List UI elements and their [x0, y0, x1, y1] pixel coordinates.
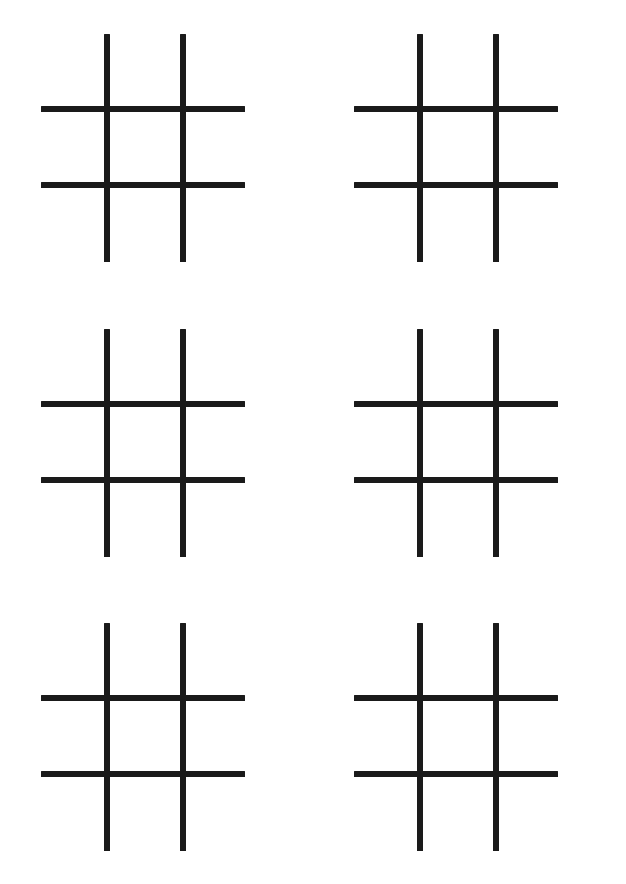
- grid-horizontal-line-top: [354, 106, 558, 112]
- tic-tac-toe-sheet: [0, 0, 626, 884]
- grid-vertical-line-right: [180, 623, 186, 851]
- grid-horizontal-line-bottom: [354, 477, 558, 483]
- grid-vertical-line-right: [493, 34, 499, 262]
- grid-horizontal-line-top: [41, 695, 245, 701]
- grid-vertical-line-left: [104, 34, 110, 262]
- grid-vertical-line-right: [180, 329, 186, 557]
- board-slot-middle-right: [313, 295, 626, 590]
- grid-vertical-line-left: [417, 329, 423, 557]
- tic-tac-toe-grid-6[interactable]: [354, 623, 558, 851]
- tic-tac-toe-grid-4[interactable]: [354, 329, 558, 557]
- grid-vertical-line-left: [417, 623, 423, 851]
- grid-horizontal-line-top: [41, 106, 245, 112]
- grid-horizontal-line-bottom: [41, 182, 245, 188]
- board-slot-top-left: [0, 0, 313, 295]
- page-canvas: [0, 0, 626, 884]
- tic-tac-toe-grid-5[interactable]: [41, 623, 245, 851]
- grid-vertical-line-left: [417, 34, 423, 262]
- board-slot-bottom-left: [0, 590, 313, 884]
- grid-vertical-line-right: [493, 623, 499, 851]
- grid-horizontal-line-bottom: [354, 771, 558, 777]
- grid-vertical-line-right: [493, 329, 499, 557]
- board-slot-middle-left: [0, 295, 313, 590]
- grid-horizontal-line-bottom: [354, 182, 558, 188]
- grid-vertical-line-left: [104, 623, 110, 851]
- grid-horizontal-line-bottom: [41, 477, 245, 483]
- tic-tac-toe-grid-2[interactable]: [354, 34, 558, 262]
- board-slot-bottom-right: [313, 590, 626, 884]
- grid-vertical-line-right: [180, 34, 186, 262]
- grid-horizontal-line-bottom: [41, 771, 245, 777]
- tic-tac-toe-grid-3[interactable]: [41, 329, 245, 557]
- board-slot-top-right: [313, 0, 626, 295]
- grid-vertical-line-left: [104, 329, 110, 557]
- grid-horizontal-line-top: [41, 401, 245, 407]
- grid-horizontal-line-top: [354, 695, 558, 701]
- tic-tac-toe-grid-1[interactable]: [41, 34, 245, 262]
- grid-horizontal-line-top: [354, 401, 558, 407]
